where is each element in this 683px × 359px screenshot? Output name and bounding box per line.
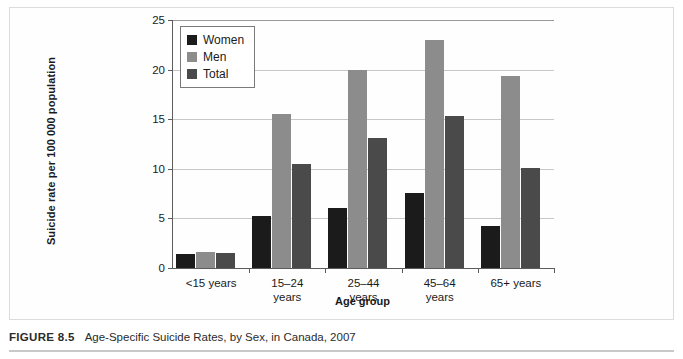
y-axis-title: Suicide rate per 100 000 population bbox=[45, 26, 57, 276]
x-tick-mark bbox=[478, 268, 479, 273]
x-axis-title: Age group bbox=[172, 295, 553, 307]
x-tick-mark bbox=[402, 268, 403, 273]
bar-total bbox=[368, 138, 387, 268]
y-tick-label: 10 bbox=[152, 163, 165, 175]
y-tick-label: 5 bbox=[159, 212, 165, 224]
bar-men bbox=[425, 40, 444, 268]
bar-women bbox=[252, 216, 271, 268]
x-tick-mark bbox=[554, 268, 555, 273]
legend-label: Total bbox=[203, 67, 228, 81]
legend-label: Women bbox=[203, 33, 244, 47]
legend-item-women: Women bbox=[187, 31, 244, 48]
figure-caption-text: Age-Specific Suicide Rates, by Sex, in C… bbox=[85, 331, 356, 343]
figure-caption-label: FIGURE 8.5 bbox=[9, 331, 75, 343]
chart-legend: WomenMenTotal bbox=[180, 26, 255, 88]
figure-caption: FIGURE 8.5Age-Specific Suicide Rates, by… bbox=[9, 331, 674, 343]
y-tick-label: 20 bbox=[152, 64, 165, 76]
legend-swatch-icon bbox=[187, 35, 197, 45]
bar-men bbox=[272, 114, 291, 268]
bar-men bbox=[501, 76, 520, 268]
bar-men bbox=[348, 70, 367, 268]
bar-total bbox=[445, 116, 464, 268]
x-tick-mark bbox=[325, 268, 326, 273]
bar-women bbox=[176, 254, 195, 268]
bar-men bbox=[196, 252, 215, 268]
y-tick-label: 15 bbox=[152, 113, 165, 125]
x-tick-label: 65+ years bbox=[470, 276, 562, 290]
bar-group bbox=[249, 20, 325, 268]
legend-item-total: Total bbox=[187, 65, 244, 82]
y-tick-label: 0 bbox=[159, 262, 165, 274]
bar-total bbox=[521, 168, 540, 268]
bar-group bbox=[402, 20, 478, 268]
bar-women bbox=[405, 193, 424, 268]
bar-group bbox=[478, 20, 554, 268]
legend-label: Men bbox=[203, 50, 226, 64]
legend-swatch-icon bbox=[187, 52, 197, 62]
caption-rule bbox=[9, 350, 674, 352]
bar-women bbox=[328, 208, 347, 269]
y-tick-mark bbox=[168, 268, 173, 269]
legend-swatch-icon bbox=[187, 69, 197, 79]
chart-container: Suicide rate per 100 000 population 0510… bbox=[0, 0, 683, 359]
bar-group bbox=[325, 20, 401, 268]
x-tick-mark bbox=[249, 268, 250, 273]
bar-women bbox=[481, 226, 500, 268]
bar-total bbox=[216, 253, 235, 268]
y-tick-label: 25 bbox=[152, 14, 165, 26]
bar-total bbox=[292, 164, 311, 268]
legend-item-men: Men bbox=[187, 48, 244, 65]
